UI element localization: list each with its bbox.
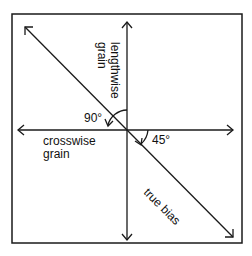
grain-diagram [0, 0, 252, 256]
crosswise-label: crosswise grain [43, 135, 96, 161]
bias-arrow [25, 27, 233, 237]
angle-45-label: 45° [152, 134, 170, 147]
lengthwise-label: lengthwise grain [95, 42, 121, 99]
angle-90-label: 90° [84, 112, 102, 125]
